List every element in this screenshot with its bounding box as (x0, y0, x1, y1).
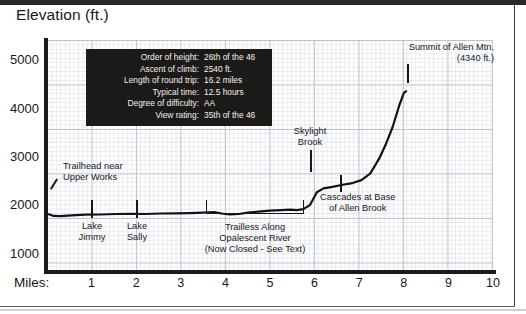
annotation-trailless: Trailless Along Opalescent River (Now Cl… (205, 222, 306, 255)
info-row-key: Typical time: (91, 87, 204, 99)
x-axis-title: Miles: (14, 275, 49, 290)
bracket-trailless-section (206, 200, 304, 214)
annotation-skylight-line2: Brook (294, 137, 327, 148)
annotation-trailless-line1: Trailless Along (205, 222, 306, 233)
annotation-trailhead-line1: Trailhead near (63, 161, 123, 172)
info-row-key: Length of round trip: (91, 75, 204, 87)
annotation-lake-sally-line1: Lake (127, 221, 147, 232)
info-row-key: Order of height: (91, 52, 204, 64)
leader-cascades (340, 175, 342, 192)
info-row-key: Ascent of climb: (91, 64, 204, 76)
annotation-trailless-line2: Opalescent River (205, 233, 306, 244)
leader-summit (407, 64, 409, 83)
x-tick-label-2: 2 (133, 276, 140, 290)
info-row: Order of height:26th of the 46 (91, 52, 267, 64)
info-row-value: AA (204, 98, 267, 110)
info-row-value: 2540 ft. (204, 64, 267, 76)
annotation-cascades: Cascades at Base of Allen Brook (320, 192, 395, 214)
annotation-trailhead-line2: Upper Works (63, 172, 123, 183)
y-tick-label-4000: 4000 (10, 100, 39, 115)
annotation-cascades-line1: Cascades at Base (320, 192, 395, 203)
annotation-skylight-line1: Skylight (294, 126, 327, 137)
annotation-trailhead: Trailhead near Upper Works (63, 161, 123, 183)
y-axis-line (44, 38, 48, 274)
y-tick-label-3000: 3000 (10, 149, 39, 164)
info-row: Ascent of climb:2540 ft. (91, 64, 267, 76)
x-tick-label-1: 1 (88, 276, 95, 290)
annotation-summit-line2: (4340 ft.) (312, 53, 494, 64)
y-tick-label-1000: 1000 (10, 245, 39, 260)
leader-skylight-brook (310, 150, 312, 172)
annotation-skylight-brook: Skylight Brook (294, 126, 327, 148)
annotation-lake-jimmy-line2: Jimmy (79, 232, 106, 243)
info-row-value: 35th of the 46 (204, 110, 267, 122)
page-border-bottom-shadow (0, 309, 526, 311)
info-row-value: 16.2 miles (204, 75, 267, 87)
info-row: Degree of difficulty:AA (91, 98, 267, 110)
leader-lake-jimmy (91, 200, 93, 218)
annotation-lake-jimmy-line1: Lake (79, 221, 106, 232)
top-scan-band (0, 0, 526, 5)
info-row: Length of round trip:16.2 miles (91, 75, 267, 87)
info-row-value: 12.5 hours (204, 87, 267, 99)
annotation-lake-sally-line2: Sally (127, 232, 147, 243)
info-row-value: 26th of the 46 (204, 52, 267, 64)
annotation-summit-line1: Summit of Allen Mtn. (312, 42, 494, 53)
info-row: View rating:35th of the 46 (91, 110, 267, 122)
x-tick-label-9: 9 (445, 276, 452, 290)
annotation-cascades-line2: of Allen Brook (320, 203, 395, 214)
y-tick-label-5000: 5000 (10, 52, 39, 67)
x-tick-label-5: 5 (267, 276, 274, 290)
x-axis-line (44, 270, 496, 274)
annotation-trailless-line3: (Now Closed - See Text) (205, 244, 306, 255)
annotation-lake-jimmy: Lake Jimmy (79, 221, 106, 243)
x-tick-label-10: 10 (486, 276, 500, 290)
page-border-right (514, 4, 515, 307)
info-row: Typical time:12.5 hours (91, 87, 267, 99)
x-tick-label-6: 6 (311, 276, 318, 290)
trail-info-box: Order of height:26th of the 46Ascent of … (86, 49, 272, 126)
leader-lake-sally (136, 200, 138, 218)
info-row-key: Degree of difficulty: (91, 98, 204, 110)
y-tick-label-2000: 2000 (10, 197, 39, 212)
x-tick-label-8: 8 (400, 276, 407, 290)
annotation-summit: Summit of Allen Mtn. (4340 ft.) (312, 42, 494, 64)
x-tick-label-3: 3 (177, 276, 184, 290)
x-tick-label-7: 7 (356, 276, 363, 290)
page-border-bottom (0, 306, 515, 307)
annotation-lake-sally: Lake Sally (127, 221, 147, 243)
info-row-key: View rating: (91, 110, 204, 122)
page-title: Elevation (ft.) (16, 6, 109, 24)
x-tick-label-4: 4 (222, 276, 229, 290)
elevation-chart-page: Elevation (ft.) 10002000300040005000 123… (0, 0, 526, 314)
